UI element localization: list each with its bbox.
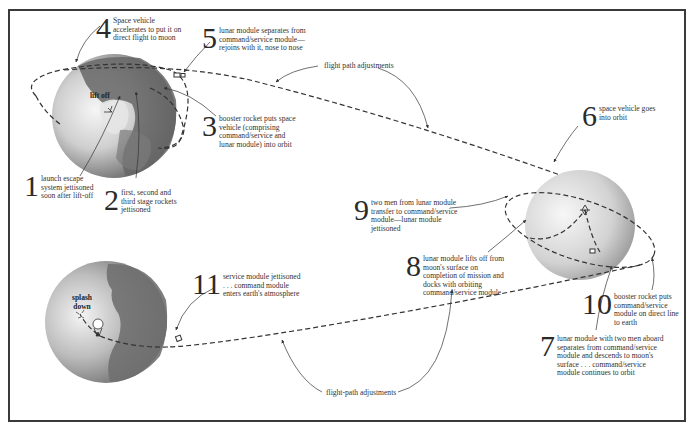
leader-return-adj-right <box>398 290 452 392</box>
step-text: booster rocket puts space vehicle (compr… <box>219 114 302 149</box>
step-number: 10 <box>582 292 612 316</box>
step-7: 7 lunar module with two men aboard separ… <box>540 334 668 378</box>
step-text: booster rocket puts command/service modu… <box>614 292 686 327</box>
step-2: 2 first, second and third stage rockets … <box>104 188 184 215</box>
earth-return <box>45 261 167 383</box>
step-number: 3 <box>202 114 217 138</box>
step-text: first, second and third stage rockets je… <box>121 188 184 215</box>
csm-lm-docked-icon <box>174 73 185 77</box>
caption-outbound-flight-path-adjustments: flight path adjustments <box>324 61 394 70</box>
command-module-icon <box>175 335 181 341</box>
earth-launch <box>52 54 176 178</box>
step-text: lunar module with two men aboard separat… <box>557 334 668 378</box>
leader-step-8 <box>488 220 526 252</box>
step-5: 5 lunar module separates from command/se… <box>202 26 310 53</box>
moon <box>525 170 635 280</box>
step-number: 8 <box>406 254 421 278</box>
step-text: service module jettisoned . . . command … <box>223 272 302 299</box>
lunar-module-orbit-icon <box>590 249 595 253</box>
step-6: 6 space vehicle goes into orbit <box>582 104 662 128</box>
step-number: 7 <box>540 334 555 358</box>
step-number: 6 <box>582 104 597 128</box>
leader-return-adj-left <box>282 340 322 392</box>
step-text: Space vehicle accelerates to put it on d… <box>113 16 186 43</box>
step-1: 1 launch escape system jettisoned soon a… <box>24 174 96 201</box>
step-number: 11 <box>192 272 221 296</box>
step-9: 9 two men from lunar module transfer to … <box>354 198 462 233</box>
step-11: 11 service module jettisoned . . . comma… <box>192 272 302 299</box>
step-number: 1 <box>24 174 39 198</box>
step-10: 10 booster rocket puts command/service m… <box>582 292 686 327</box>
step-number: 4 <box>96 16 111 40</box>
step-text: lunar module separates from command/serv… <box>219 26 310 53</box>
step-text: lunar module lifts off from moon's surfa… <box>423 254 506 298</box>
step-number: 9 <box>354 198 369 222</box>
leader-outbound-adj-left <box>276 66 318 82</box>
leader-outbound-adj-right <box>378 68 428 128</box>
splash-down-label: splash down <box>66 294 98 311</box>
lift-off-label: lift off <box>90 92 110 101</box>
step-number: 2 <box>104 188 119 212</box>
step-text: space vehicle goes into orbit <box>599 104 662 122</box>
leader-step-6 <box>554 126 578 162</box>
step-4: 4 Space vehicle accelerates to put it on… <box>96 16 186 43</box>
step-number: 5 <box>202 26 217 50</box>
caption-return-flight-path-adjustments: flight-path adjustments <box>326 388 396 397</box>
leader-step-10 <box>652 258 654 290</box>
step-8: 8 lunar module lifts off from moon's sur… <box>406 254 506 298</box>
step-text: launch escape system jettisoned soon aft… <box>41 174 96 201</box>
step-3: 3 booster rocket puts space vehicle (com… <box>202 114 302 149</box>
step-text: two men from lunar module transfer to co… <box>371 198 462 233</box>
